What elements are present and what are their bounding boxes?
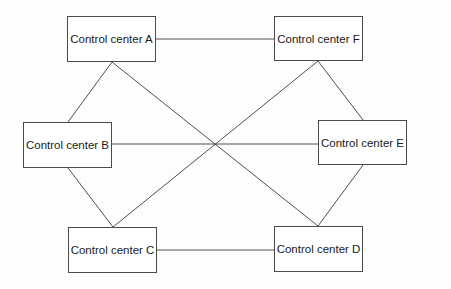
edge-f-e <box>318 61 363 120</box>
node-control-center-d: Control center D <box>274 226 363 272</box>
node-label: Control center B <box>26 139 109 151</box>
node-label: Control center E <box>321 137 404 149</box>
edge-b-c <box>68 168 113 227</box>
node-control-center-a: Control center A <box>67 16 156 62</box>
node-label: Control center F <box>277 33 359 45</box>
edge-a-b <box>68 62 112 122</box>
node-label: Control center A <box>70 33 152 45</box>
node-label: Control center D <box>277 243 361 255</box>
node-control-center-e: Control center E <box>318 120 407 165</box>
node-control-center-f: Control center F <box>274 16 363 61</box>
node-control-center-b: Control center B <box>23 122 112 168</box>
node-label: Control center C <box>71 244 155 256</box>
edge-e-d <box>318 165 363 226</box>
node-control-center-c: Control center C <box>68 227 157 273</box>
